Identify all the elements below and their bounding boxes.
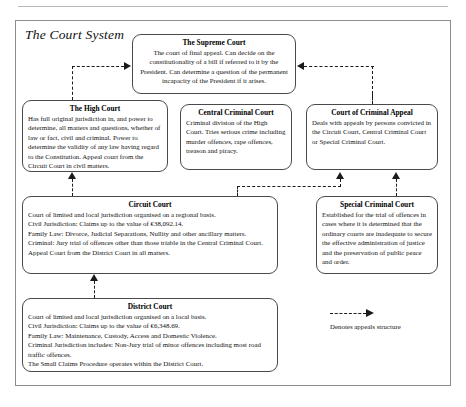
court-body-line: Appeal Court from the District Court in …: [28, 248, 272, 257]
court-body-line: Court of limited and local jurisdiction …: [28, 210, 272, 219]
arrowhead-into-supreme-left: [124, 62, 131, 70]
page-top-rule: [18, 6, 448, 7]
court-body-line: Court of limited and local jurisdiction …: [28, 312, 272, 321]
figure-title: The Court System: [25, 27, 124, 43]
connector-stub-above-criminal-appeal: [372, 94, 373, 104]
court-body-circuit-court: Court of limited and local jurisdiction …: [28, 210, 272, 257]
court-body-special-criminal-court: Established for the trial of offences in…: [322, 210, 432, 266]
court-box-central-criminal-court[interactable]: Central Criminal Court Criminal division…: [180, 104, 292, 170]
arrowhead-into-supreme-right: [297, 62, 304, 70]
court-box-supreme-court[interactable]: The Supreme Court The court of final app…: [132, 34, 296, 94]
arrowhead-into-criminal-appeal-right: [392, 172, 400, 179]
connector-criminal-appeal-to-supreme-horizontal: [304, 66, 374, 67]
connector-district-to-circuit-vertical: [94, 281, 95, 298]
court-box-circuit-court[interactable]: Circuit Court Court of limited and local…: [22, 196, 278, 274]
connector-circuit-to-criminal-appeal-vertical: [340, 179, 341, 187]
court-title-supreme-court: The Supreme Court: [138, 38, 290, 48]
court-body-district-court: Court of limited and local jurisdiction …: [28, 312, 272, 368]
court-title-special-criminal-court: Special Criminal Court: [322, 200, 432, 210]
court-body-line: Civil Jurisdiction: Claims up to the val…: [28, 321, 272, 330]
court-title-district-court: District Court: [28, 302, 272, 312]
court-body-line: Family Law: Divorce, Judicial Separation…: [28, 229, 272, 238]
legend-label: Denotes appeals structure: [330, 322, 401, 331]
court-body-line: Criminal Jurisdiction includes: Non-Jury…: [28, 340, 272, 359]
court-body-line: Civil Jurisdiction: Claims up to the val…: [28, 219, 272, 228]
arrowhead-into-criminal-appeal-left: [336, 172, 344, 179]
court-body-line: Family Law: Maintenance, Custody, Access…: [28, 331, 272, 340]
legend-dashed-line: [330, 313, 366, 314]
connector-circuit-to-high-vertical: [72, 179, 73, 196]
court-body-court-of-criminal-appeal: Deals with appeals by persons convicted …: [312, 118, 432, 146]
court-body-line: The Small Claims Procedure operates with…: [28, 359, 272, 368]
court-title-circuit-court: Circuit Court: [28, 200, 272, 210]
court-title-central-criminal-court: Central Criminal Court: [186, 108, 286, 118]
court-title-high-court: The High Court: [28, 104, 162, 114]
legend-arrowhead-icon: [366, 309, 374, 317]
court-box-special-criminal-court[interactable]: Special Criminal Court Established for t…: [316, 196, 438, 274]
court-body-central-criminal-court: Criminal division of the High Court. Tri…: [186, 118, 286, 156]
court-box-district-court[interactable]: District Court Court of limited and loca…: [22, 298, 278, 372]
court-body-high-court: Has full original jurisdiction in, and p…: [28, 114, 162, 170]
connector-circuit-to-criminal-appeal-horizontal: [237, 186, 341, 187]
court-box-high-court[interactable]: The High Court Has full original jurisdi…: [22, 100, 168, 172]
arrowhead-into-high-court: [68, 172, 76, 179]
court-title-court-of-criminal-appeal: Court of Criminal Appeal: [312, 108, 432, 118]
connector-high-to-supreme-vertical: [72, 66, 73, 100]
court-body-line: Criminal: Jury trial of offences other t…: [28, 238, 272, 247]
connector-high-to-supreme-horizontal: [72, 66, 124, 67]
connector-special-to-criminal-appeal-vertical: [396, 179, 397, 196]
court-box-court-of-criminal-appeal[interactable]: Court of Criminal Appeal Deals with appe…: [306, 104, 438, 170]
connector-circuit-to-criminal-appeal-stub: [237, 186, 238, 196]
court-body-supreme-court: The court of final appeal. Can decide on…: [138, 48, 290, 86]
arrowhead-into-circuit-court: [90, 274, 98, 281]
